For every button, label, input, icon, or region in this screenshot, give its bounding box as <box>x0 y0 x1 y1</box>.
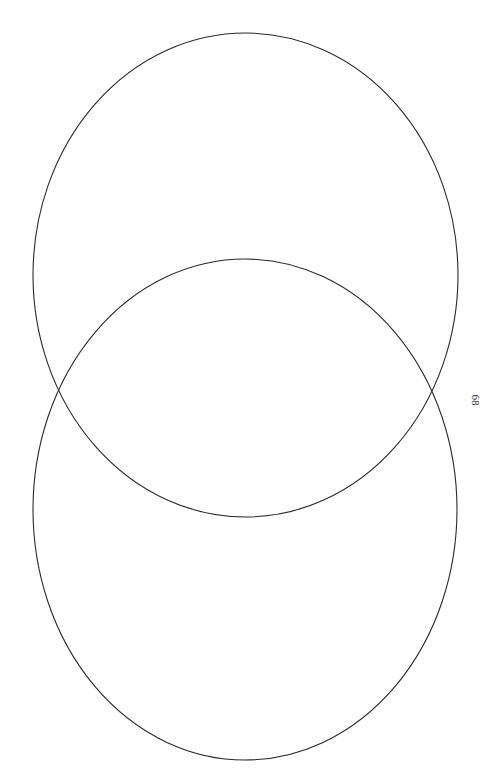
top-ellipse <box>33 33 458 517</box>
page-number: 68 <box>470 395 482 406</box>
bottom-ellipse <box>33 259 457 760</box>
venn-diagram <box>0 0 501 784</box>
